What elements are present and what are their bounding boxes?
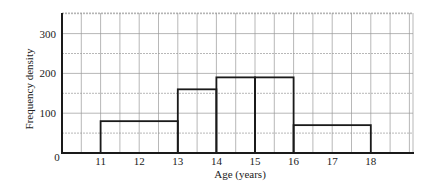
y-axis-label: Frequency density <box>23 48 35 129</box>
x-tick-label: 12 <box>134 155 145 167</box>
x-tick-label: 14 <box>211 155 223 167</box>
x-tick-label: 11 <box>95 155 106 167</box>
x-tick-label: 13 <box>172 155 184 167</box>
x-tick-label: 16 <box>288 155 300 167</box>
y-tick-label: 100 <box>40 107 57 119</box>
histogram-chart: 01112131415161718 100200300 Age (years) … <box>0 0 431 191</box>
grid-lines <box>62 13 413 153</box>
y-tick-label: 300 <box>40 28 57 40</box>
y-tick-label: 200 <box>40 67 57 79</box>
x-tick-label: 18 <box>365 155 377 167</box>
x-axis-label: Age (years) <box>214 168 266 181</box>
x-tick-label: 0 <box>54 151 60 163</box>
x-tick-label: 15 <box>250 155 262 167</box>
y-tick-labels: 100200300 <box>40 28 57 120</box>
x-tick-label: 17 <box>327 155 339 167</box>
